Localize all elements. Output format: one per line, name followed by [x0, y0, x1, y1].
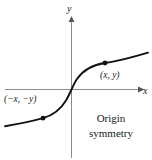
point-xy-label: (x, y): [100, 71, 120, 81]
y-axis-arrow: [69, 16, 75, 22]
x-axis-label: x: [143, 86, 147, 96]
point-negative-xy-label: (−x, −y): [4, 95, 36, 105]
point-xy-marker: [103, 61, 108, 66]
figure-caption: Origin symmetry: [78, 111, 144, 141]
caption-line-origin: Origin: [78, 111, 144, 126]
y-axis-label: y: [67, 4, 71, 14]
caption-line-symmetry: symmetry: [78, 126, 144, 141]
point-neg-xy-marker: [41, 116, 46, 121]
origin-symmetry-figure: y x (x, y) (−x, −y) Origin symmetry: [0, 0, 152, 160]
